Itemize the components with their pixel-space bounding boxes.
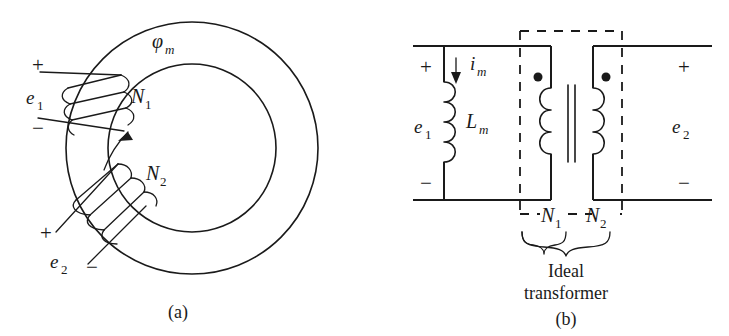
im-subscript: m [477, 64, 486, 79]
e1-subscript-b: 1 [425, 127, 432, 142]
magnetizing-branch [444, 46, 455, 200]
n2-symbol-b: N [585, 204, 601, 226]
e2-subscript: 2 [61, 262, 68, 277]
flux-label: φ m [152, 30, 174, 57]
primary-plus-sign: + [32, 53, 44, 77]
secondary-minus-sign: − [86, 255, 98, 279]
panel-a: φ m N 1 [26, 22, 318, 323]
flux-subscript: m [165, 42, 174, 57]
secondary-emf-label: e 2 [50, 251, 68, 277]
figure-canvas: φ m N 1 [0, 0, 729, 336]
im-symbol: i [470, 53, 475, 74]
left-minus-sign: − [420, 171, 432, 195]
secondary-polarity-dot [602, 73, 611, 82]
flux-symbol: φ [152, 30, 163, 53]
figure-root: φ m N 1 [0, 0, 729, 336]
e1-symbol: e [26, 87, 34, 108]
right-emf-label: e 2 [672, 116, 690, 142]
caption-panel-b: (b) [556, 309, 577, 330]
primary-emf-label: e 1 [26, 87, 44, 113]
transformer-core [568, 85, 575, 162]
magnetizing-inductance-label: L m [465, 110, 488, 137]
primary-minus-sign: − [32, 116, 44, 140]
primary-polarity-dot [534, 73, 543, 82]
ideal-transformer-dashed-box [520, 31, 622, 214]
n2-subscript-b: 2 [600, 216, 607, 231]
ideal-secondary-turns-label: N 2 [585, 204, 607, 231]
n1-symbol: N [130, 85, 146, 107]
right-plus-sign: + [678, 55, 690, 79]
lm-symbol: L [465, 110, 477, 132]
n1-symbol-b: N [540, 204, 556, 226]
magnetizing-current-label: i m [470, 53, 486, 79]
n1-subscript-b: 1 [555, 216, 562, 231]
ideal-transformer-secondary [593, 46, 611, 200]
toroid-outer-circle [66, 22, 318, 274]
right-minus-sign: − [678, 171, 690, 195]
ideal-transformer-label-line2: transformer [524, 283, 608, 303]
primary-turns-label: N 1 [130, 85, 152, 112]
n2-symbol: N [145, 162, 161, 184]
ideal-transformer-primary [534, 46, 552, 200]
secondary-winding-n2 [73, 164, 157, 244]
e1-subscript: 1 [37, 98, 44, 113]
caption-panel-a: (a) [168, 302, 188, 323]
lm-subscript: m [479, 122, 488, 137]
magnetizing-current-arrow [451, 58, 461, 84]
left-emf-label: e 1 [414, 116, 432, 142]
ideal-primary-turns-label: N 1 [540, 204, 562, 231]
panel-b: i m L m + − e 1 [413, 31, 712, 330]
circuit-rails [413, 46, 712, 200]
e2-symbol: e [50, 251, 58, 272]
e2-subscript-b: 2 [683, 127, 690, 142]
secondary-turns-label: N 2 [145, 162, 167, 189]
n2-subscript: 2 [160, 174, 167, 189]
secondary-plus-sign: + [40, 221, 52, 245]
n1-subscript: 1 [145, 97, 152, 112]
ideal-transformer-label-line1: Ideal [548, 261, 584, 281]
e2-symbol-b: e [672, 116, 680, 137]
ideal-transformer-brace [522, 232, 610, 256]
e1-symbol-b: e [414, 116, 422, 137]
left-plus-sign: + [420, 55, 432, 79]
